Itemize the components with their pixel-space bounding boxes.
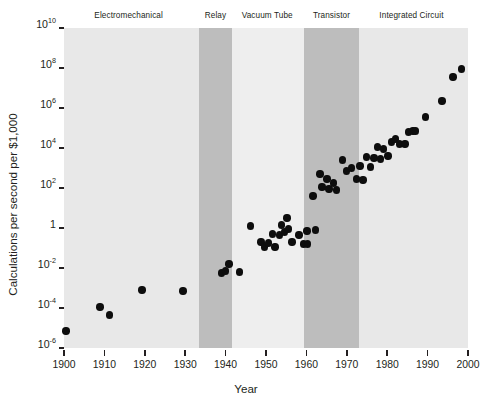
era-label-electromechanical: Electromechanical bbox=[94, 11, 163, 20]
data-point bbox=[348, 164, 355, 171]
x-tick bbox=[104, 350, 106, 356]
x-tick bbox=[346, 350, 348, 356]
data-point bbox=[222, 267, 229, 274]
x-tick bbox=[184, 350, 186, 356]
y-tick bbox=[59, 67, 64, 68]
x-tick-label: 1940 bbox=[214, 359, 237, 370]
x-tick bbox=[265, 350, 267, 356]
y-tick-label: 106 bbox=[40, 99, 56, 110]
x-tick-label: 1920 bbox=[133, 359, 156, 370]
y-tick bbox=[59, 307, 64, 308]
era-label-transistor: Transistor bbox=[313, 11, 350, 20]
x-tick-label: 1900 bbox=[52, 359, 75, 370]
x-tick bbox=[306, 350, 308, 356]
x-tick-label: 1970 bbox=[335, 359, 358, 370]
data-point bbox=[449, 73, 456, 80]
x-axis-title: Year bbox=[0, 382, 492, 395]
era-label-vacuum-tube: Vacuum Tube bbox=[242, 11, 293, 20]
y-tick bbox=[59, 147, 64, 148]
data-point bbox=[312, 226, 319, 233]
x-tick-label: 1980 bbox=[376, 359, 399, 370]
y-tick bbox=[59, 227, 64, 228]
data-point bbox=[438, 97, 445, 104]
y-tick bbox=[59, 347, 64, 348]
data-point bbox=[309, 192, 316, 199]
y-axis-title: Calculations per second per $1,000 bbox=[2, 0, 22, 408]
data-point bbox=[356, 162, 363, 169]
x-tick-label: 1930 bbox=[174, 359, 197, 370]
x-tick bbox=[225, 350, 227, 356]
data-point bbox=[236, 268, 243, 275]
data-point bbox=[179, 287, 186, 294]
data-point bbox=[285, 225, 292, 232]
data-point bbox=[106, 311, 113, 318]
data-point bbox=[412, 127, 419, 134]
y-tick-label: 10-2 bbox=[38, 259, 56, 270]
x-tick bbox=[144, 350, 146, 356]
data-point bbox=[458, 65, 465, 72]
data-point bbox=[367, 163, 374, 170]
x-tick-label: 1990 bbox=[416, 359, 439, 370]
era-band-electromechanical bbox=[64, 28, 199, 348]
x-tick-label: 2000 bbox=[456, 359, 479, 370]
x-tick bbox=[467, 350, 469, 356]
x-tick-label: 1910 bbox=[93, 359, 116, 370]
y-tick-label: 10-4 bbox=[38, 299, 56, 310]
data-point bbox=[304, 240, 311, 247]
data-point bbox=[96, 303, 103, 310]
data-point bbox=[401, 140, 408, 147]
data-point bbox=[333, 186, 340, 193]
era-label-relay: Relay bbox=[205, 11, 226, 20]
y-tick-label: 102 bbox=[40, 179, 56, 190]
plot-area: ElectromechanicalRelayVacuum TubeTransis… bbox=[64, 28, 468, 348]
y-tick-label: 1 bbox=[50, 219, 56, 230]
data-point bbox=[339, 156, 346, 163]
y-axis-title-text: Calculations per second per $1,000 bbox=[6, 113, 19, 295]
x-tick-label: 1950 bbox=[254, 359, 277, 370]
x-tick bbox=[386, 350, 388, 356]
data-point bbox=[295, 231, 302, 238]
data-point bbox=[422, 113, 429, 120]
data-point bbox=[271, 243, 278, 250]
data-point bbox=[247, 222, 254, 229]
x-tick bbox=[427, 350, 429, 356]
era-band-relay bbox=[199, 28, 231, 348]
data-point bbox=[283, 214, 290, 221]
data-point bbox=[288, 238, 295, 245]
data-point bbox=[359, 176, 366, 183]
y-tick-label: 104 bbox=[40, 139, 56, 150]
x-tick-label: 1960 bbox=[295, 359, 318, 370]
y-tick-label: 108 bbox=[40, 59, 56, 70]
era-label-integrated-circuit: Integrated Circuit bbox=[379, 11, 443, 20]
y-tick bbox=[59, 267, 64, 268]
data-point bbox=[138, 286, 145, 293]
data-point bbox=[303, 227, 310, 234]
y-tick-label: 10-6 bbox=[38, 339, 56, 350]
y-tick-label: 1010 bbox=[36, 19, 56, 30]
data-point bbox=[225, 260, 232, 267]
y-tick bbox=[59, 107, 64, 108]
era-band-vacuum-tube bbox=[232, 28, 305, 348]
x-axis: 1900191019201930194019501960197019801990… bbox=[64, 350, 468, 380]
chart-figure: ElectromechanicalRelayVacuum TubeTransis… bbox=[0, 0, 492, 408]
data-point bbox=[384, 152, 391, 159]
y-tick bbox=[59, 187, 64, 188]
x-tick bbox=[63, 350, 65, 356]
y-tick bbox=[59, 27, 64, 28]
